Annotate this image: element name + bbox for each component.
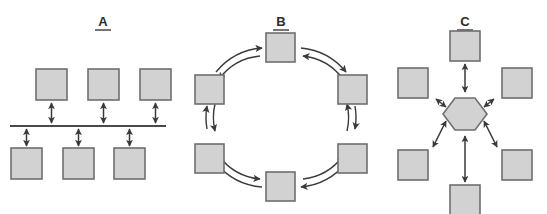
panel-b-label: B	[276, 14, 286, 29]
panel-c-label: C	[460, 14, 470, 29]
arrow-c-hub-to-lower-right	[484, 121, 497, 147]
node-c-upper-right[interactable]	[502, 68, 532, 98]
arc-b-lowerright-to-upperright	[347, 104, 349, 131]
node-b-upper-left[interactable]	[195, 75, 224, 104]
arc-b-bottom-to-lowerright	[303, 156, 343, 179]
node-a-bottom-1[interactable]	[11, 148, 42, 179]
panel-a-bus-topology: A	[10, 14, 171, 179]
arrow-c-hub-to-upper-right	[484, 99, 494, 107]
arc-b-top-to-upperright	[301, 48, 346, 72]
node-b-bottom[interactable]	[266, 172, 295, 201]
node-c-bottom[interactable]	[450, 185, 480, 214]
node-c-lower-right[interactable]	[502, 150, 532, 180]
node-a-top-1[interactable]	[36, 69, 67, 100]
panel-b-ring-topology: B	[195, 14, 367, 201]
node-a-top-2[interactable]	[88, 69, 119, 100]
network-topology-figure: A B	[0, 0, 547, 214]
node-b-top[interactable]	[266, 33, 295, 62]
arc-b-upperleft-to-lowerleft	[213, 104, 215, 131]
ring-arc-group	[206, 48, 356, 187]
panel-c-star-topology: C	[398, 14, 532, 214]
node-b-lower-left[interactable]	[195, 144, 224, 173]
node-b-upper-right[interactable]	[338, 75, 367, 104]
arc-b-lowerleft-to-upperleft	[206, 106, 207, 129]
node-c-lower-left[interactable]	[398, 150, 428, 180]
node-a-bottom-2[interactable]	[63, 148, 94, 179]
arc-b-upperright-to-lowerright	[355, 106, 356, 129]
node-c-top[interactable]	[450, 31, 480, 61]
arc-b-upperleft-to-top	[216, 48, 262, 72]
arrow-c-hub-to-upper-left	[436, 99, 446, 107]
arc-b-top-to-upperleft	[219, 56, 260, 79]
node-b-lower-right[interactable]	[338, 144, 367, 173]
arrow-c-hub-to-lower-left	[433, 121, 446, 147]
arc-b-lowerleft-to-bottom	[219, 156, 260, 179]
node-a-bottom-3[interactable]	[114, 148, 145, 179]
panel-a-label: A	[98, 14, 108, 29]
hub-c-hexagon[interactable]	[443, 98, 487, 130]
node-c-upper-left[interactable]	[398, 68, 428, 98]
arc-b-upperright-to-top	[303, 56, 343, 79]
node-a-top-3[interactable]	[140, 69, 171, 100]
